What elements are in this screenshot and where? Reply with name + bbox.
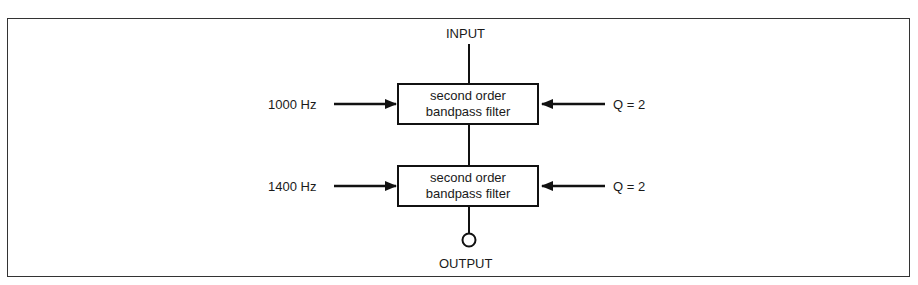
frequency-label-2: 1400 Hz — [268, 179, 316, 194]
frequency-label-1: 1000 Hz — [268, 97, 316, 112]
q-label-1: Q = 2 — [613, 97, 645, 112]
filter-2-line1: second order — [430, 170, 506, 186]
bandpass-filter-block-2: second order bandpass filter — [397, 165, 539, 207]
filter-1-line1: second order — [430, 88, 506, 104]
filter-2-line2: bandpass filter — [426, 186, 511, 202]
output-terminal-icon — [463, 234, 476, 247]
bandpass-filter-block-1: second order bandpass filter — [397, 83, 539, 125]
output-label: OUTPUT — [439, 256, 492, 271]
connections-layer — [0, 0, 918, 285]
q-label-2: Q = 2 — [613, 179, 645, 194]
filter-1-line2: bandpass filter — [426, 104, 511, 120]
input-label: INPUT — [446, 26, 485, 41]
